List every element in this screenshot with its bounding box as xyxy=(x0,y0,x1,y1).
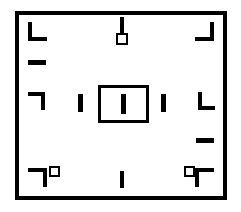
test-pattern-figure xyxy=(0,0,241,212)
corner-mark-top-right-horizontal-leg xyxy=(195,37,214,41)
corner-mark-bottom-left xyxy=(28,168,47,187)
corner-mark-left-middle xyxy=(28,92,45,110)
corner-mark-bottom-right-horizontal-leg xyxy=(195,168,214,172)
bar-right-inner xyxy=(161,94,166,112)
corner-mark-right-middle-horizontal-leg xyxy=(198,106,215,110)
bar-center xyxy=(121,94,126,114)
corner-mark-right-middle xyxy=(198,92,215,110)
corner-mark-top-left-horizontal-leg xyxy=(28,37,47,41)
square-bottom-right xyxy=(184,166,195,177)
corner-mark-left-middle-horizontal-leg xyxy=(28,92,45,96)
bar-bottom-center xyxy=(120,171,124,188)
corner-mark-bottom-right xyxy=(195,168,214,187)
dash-left-upper xyxy=(28,60,46,65)
square-top-center xyxy=(116,33,128,45)
dash-right-lower xyxy=(196,138,214,143)
square-bottom-left xyxy=(49,166,60,177)
bar-left-inner xyxy=(78,94,83,112)
corner-mark-bottom-left-horizontal-leg xyxy=(28,168,47,172)
corner-mark-top-right xyxy=(195,22,214,41)
bar-top-center xyxy=(120,17,124,33)
corner-mark-top-left xyxy=(28,22,47,41)
